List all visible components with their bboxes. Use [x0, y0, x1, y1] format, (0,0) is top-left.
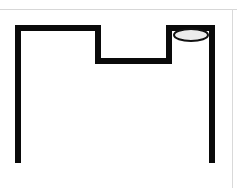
figure-canvas: [0, 0, 237, 188]
line-drawing: [0, 0, 237, 188]
elliptical-opening-icon: [174, 29, 208, 41]
notched-frame-outline: [18, 28, 212, 163]
